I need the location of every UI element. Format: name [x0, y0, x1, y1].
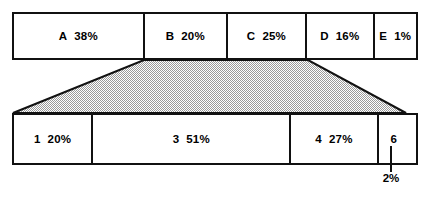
bottom-bar: 120% 351% 427% 6: [12, 113, 418, 165]
top-segment-e[interactable]: E1%: [375, 14, 416, 58]
top-segment-c-value: 25%: [262, 30, 286, 42]
top-segment-b[interactable]: B20%: [145, 14, 228, 58]
top-segment-b-label: B: [166, 30, 175, 42]
top-segment-d[interactable]: D16%: [307, 14, 375, 58]
bottom-segment-3-text: 351%: [173, 133, 210, 145]
top-segment-e-value: 1%: [394, 30, 411, 42]
bottom-segment-3[interactable]: 351%: [93, 115, 291, 163]
connector-shape: [13, 60, 406, 113]
bottom-segment-4-value: 27%: [329, 133, 353, 145]
bottom-segment-4[interactable]: 427%: [291, 115, 378, 163]
top-segment-d-text: D16%: [320, 30, 359, 42]
diagram-canvas: A38% B20% C25% D16% E1%: [0, 0, 431, 199]
connector-trapezoid: [0, 56, 431, 118]
top-segment-c-label: C: [247, 30, 256, 42]
bottom-segment-3-value: 51%: [186, 133, 210, 145]
bottom-segment-3-label: 3: [173, 133, 180, 145]
bottom-segment-1[interactable]: 120%: [14, 115, 93, 163]
top-segment-a-text: A38%: [59, 30, 98, 42]
bottom-segment-4-text: 427%: [315, 133, 352, 145]
leader-line: [390, 146, 392, 172]
bottom-segment-4-label: 4: [315, 133, 322, 145]
top-bar: A38% B20% C25% D16% E1%: [12, 12, 418, 60]
top-segment-a[interactable]: A38%: [14, 14, 145, 58]
top-segment-d-value: 16%: [336, 30, 360, 42]
bottom-segment-1-text: 120%: [34, 133, 71, 145]
top-segment-a-label: A: [59, 30, 68, 42]
bottom-segment-6-text: 6: [390, 133, 404, 145]
bottom-segment-1-label: 1: [34, 133, 41, 145]
bottom-segment-1-value: 20%: [48, 133, 72, 145]
annotation-label: 2%: [369, 172, 413, 184]
top-segment-c-text: C25%: [247, 30, 286, 42]
top-segment-a-value: 38%: [74, 30, 98, 42]
top-segment-b-value: 20%: [181, 30, 205, 42]
top-segment-b-text: B20%: [166, 30, 205, 42]
top-segment-d-label: D: [320, 30, 329, 42]
top-segment-c[interactable]: C25%: [228, 14, 307, 58]
bottom-segment-6[interactable]: 6: [379, 115, 416, 163]
top-segment-e-text: E1%: [379, 30, 411, 42]
top-segment-e-label: E: [379, 30, 387, 42]
bottom-segment-6-label: 6: [390, 133, 397, 145]
